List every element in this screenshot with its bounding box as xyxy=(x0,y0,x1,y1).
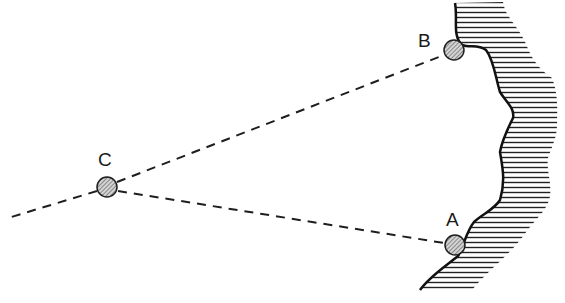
station-c xyxy=(97,177,117,197)
label-b: B xyxy=(418,30,431,51)
triangulation-diagram: B C A xyxy=(0,0,565,303)
label-a: A xyxy=(446,209,459,230)
station-b xyxy=(444,40,464,60)
sight-line-c-to-a xyxy=(118,191,444,243)
sight-line-c-to-b xyxy=(117,55,444,182)
sight-line-c-extension xyxy=(8,191,97,218)
station-a xyxy=(445,235,465,255)
label-c: C xyxy=(98,149,112,170)
